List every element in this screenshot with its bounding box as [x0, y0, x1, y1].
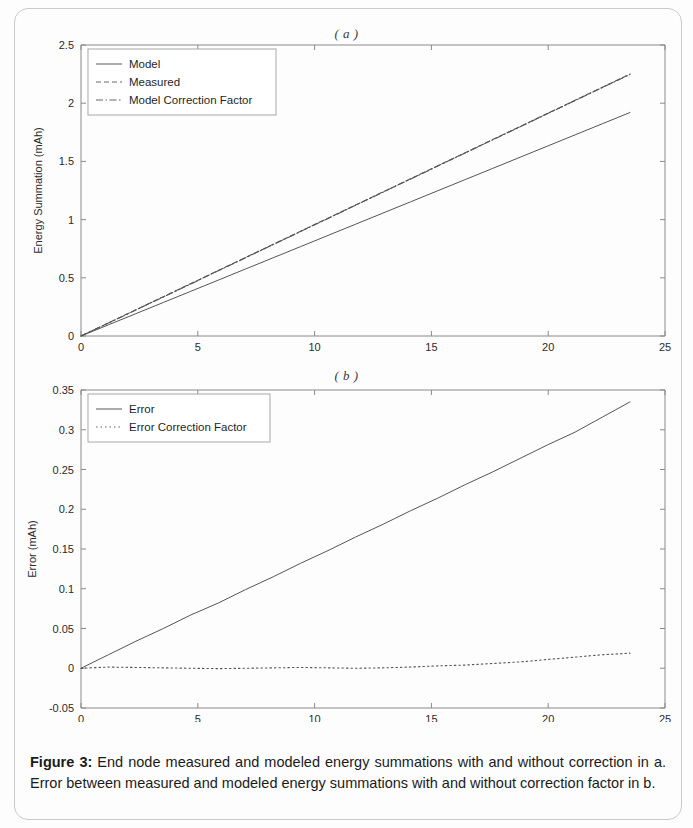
- y-tick-label: 0.35: [53, 384, 74, 396]
- figure-caption: Figure 3: End node measured and modeled …: [30, 752, 666, 794]
- series-line-error-correction-factor: [81, 653, 630, 669]
- x-tick-label: 0: [78, 713, 84, 722]
- y-axis-label: Energy Summation (mAh): [32, 127, 44, 254]
- y-tick-label: 0: [68, 662, 74, 674]
- chart-b-canvas: 0510152025-0.0500.050.10.150.20.250.30.3…: [0, 362, 693, 722]
- x-tick-label: 5: [195, 341, 201, 353]
- x-tick-label: 20: [542, 713, 554, 722]
- y-tick-label: 1.5: [59, 155, 74, 167]
- chart-legend: ErrorError Correction Factor: [88, 394, 270, 442]
- x-tick-label: 0: [78, 341, 84, 353]
- x-tick-label: 20: [542, 341, 554, 353]
- x-tick-label: 5: [195, 713, 201, 722]
- chart-panel-a: ( a ) 051015202500.511.522.5Time (hr)Ene…: [0, 22, 693, 362]
- figure-page: ( a ) 051015202500.511.522.5Time (hr)Ene…: [0, 0, 693, 828]
- y-tick-label: 0.5: [59, 272, 74, 284]
- y-tick-label: 2: [68, 97, 74, 109]
- y-tick-label: -0.05: [49, 702, 74, 714]
- series-line-model: [81, 113, 630, 336]
- x-tick-label: 10: [308, 713, 320, 722]
- legend-label: Error Correction Factor: [129, 421, 247, 433]
- y-tick-label: 2.5: [59, 39, 74, 51]
- chart-panel-b: ( b ) 0510152025-0.0500.050.10.150.20.25…: [0, 362, 693, 722]
- y-axis-label: Error (mAh): [26, 520, 38, 577]
- chart-a-canvas: 051015202500.511.522.5Time (hr)Energy Su…: [0, 22, 693, 362]
- x-tick-label: 25: [659, 713, 671, 722]
- figure-caption-label: Figure 3:: [30, 754, 92, 770]
- x-tick-label: 25: [659, 341, 671, 353]
- y-tick-label: 1: [68, 214, 74, 226]
- x-tick-label: 15: [425, 341, 437, 353]
- y-tick-label: 0.25: [53, 464, 74, 476]
- y-tick-label: 0: [68, 330, 74, 342]
- y-tick-label: 0.3: [59, 424, 74, 436]
- y-tick-label: 0.2: [59, 503, 74, 515]
- figure-caption-text: End node measured and modeled energy sum…: [30, 754, 666, 791]
- legend-label: Measured: [129, 76, 180, 88]
- y-tick-label: 0.1: [59, 583, 74, 595]
- legend-label: Model Correction Factor: [129, 94, 253, 106]
- y-tick-label: 0.15: [53, 543, 74, 555]
- legend-label: Model: [129, 58, 160, 70]
- chart-legend: ModelMeasuredModel Correction Factor: [88, 49, 276, 115]
- x-tick-label: 10: [308, 341, 320, 353]
- y-tick-label: 0.05: [53, 623, 74, 635]
- legend-label: Error: [129, 403, 155, 415]
- x-tick-label: 15: [425, 713, 437, 722]
